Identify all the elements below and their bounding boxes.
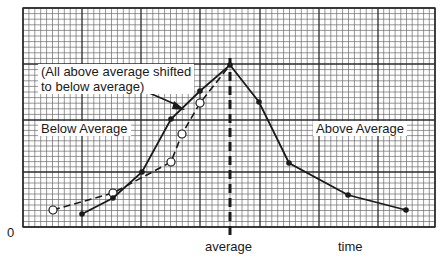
annotation-line-2: to below average)	[41, 79, 191, 94]
annotation-line-1: (All above average shifted	[41, 64, 191, 79]
x-axis-label-time: time	[338, 239, 363, 254]
annotation-text: (All above average shifted to below aver…	[38, 64, 194, 94]
below-average-label: Below Average	[38, 121, 131, 136]
origin-zero-label: 0	[7, 225, 14, 240]
above-average-label: Above Average	[313, 121, 407, 136]
x-marker-average-label: average	[205, 239, 252, 254]
